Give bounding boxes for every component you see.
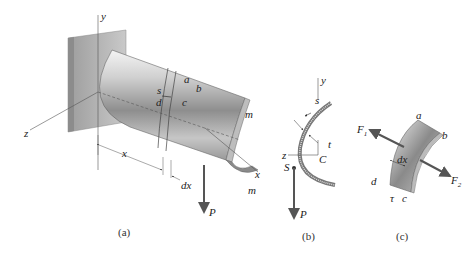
- label-c: c: [182, 96, 187, 108]
- label-a-c: a: [416, 109, 422, 121]
- force-f2-arrow: [420, 160, 450, 176]
- label-z-b: z: [281, 149, 287, 161]
- label-a: a: [184, 73, 190, 85]
- force-f1-arrow: [370, 130, 404, 147]
- label-b-c: b: [442, 129, 448, 141]
- label-f1: F1: [356, 123, 367, 138]
- label-z: z: [23, 127, 29, 139]
- label-dx: dx: [181, 179, 192, 191]
- label-x-dim: x: [121, 147, 127, 159]
- label-x-axis: x: [254, 168, 260, 180]
- label-m-top: m: [245, 108, 253, 120]
- panel-a: y z s a b d c m x m x dx P (a): [23, 10, 260, 239]
- tube-body: [100, 50, 245, 160]
- label-p: P: [208, 206, 216, 218]
- figure-canvas: y z s a b d c m x m x dx P (a) y s t z C…: [0, 0, 472, 253]
- label-dx-c: dx: [397, 153, 408, 165]
- label-b: b: [196, 82, 202, 94]
- panel-b: y s t z C S P (b): [281, 74, 335, 243]
- caption-a: (a): [118, 226, 131, 239]
- label-y-b: y: [320, 74, 326, 86]
- label-tau: τ: [390, 192, 395, 204]
- caption-b: (b): [302, 230, 315, 243]
- label-s: s: [157, 84, 161, 96]
- label-t: t: [328, 138, 332, 150]
- panel-c: F1 F2 a b d dx c τ (c): [356, 109, 462, 243]
- label-d: d: [156, 96, 162, 108]
- label-c-centroid: C: [319, 153, 327, 165]
- label-m-bottom: m: [248, 184, 256, 196]
- label-f2: F2: [450, 174, 462, 189]
- label-y: y: [100, 10, 106, 22]
- label-s-b: s: [315, 94, 319, 106]
- label-d-c: d: [371, 175, 377, 187]
- label-p-b: P: [299, 208, 307, 220]
- caption-c: (c): [396, 230, 409, 243]
- label-shear-center: S: [284, 161, 290, 173]
- label-c-c: c: [402, 192, 407, 204]
